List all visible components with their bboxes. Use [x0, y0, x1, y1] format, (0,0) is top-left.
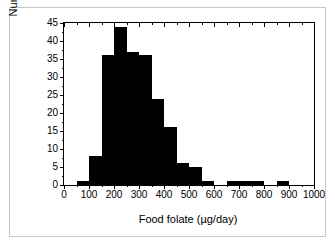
histogram-bar: [189, 167, 202, 185]
x-axis-minor-tick: [77, 185, 78, 187]
x-axis-tick-label: 300: [131, 190, 148, 200]
y-axis-tick: [60, 149, 64, 150]
histogram-bar: [177, 163, 190, 185]
y-axis-tick-label: 15: [47, 126, 58, 136]
x-axis-top-tick: [314, 23, 315, 27]
x-axis-tick-label: 100: [81, 190, 98, 200]
x-axis-tick-label: 200: [106, 190, 123, 200]
x-axis-minor-tick: [177, 185, 178, 187]
x-axis-minor-tick: [102, 185, 103, 187]
x-axis-top-minor-tick: [177, 23, 178, 25]
x-axis-top-tick: [289, 23, 290, 27]
y-axis-minor-tick: [62, 68, 64, 69]
x-axis-tick-label: 0: [61, 190, 67, 200]
histogram-bar: [127, 52, 140, 185]
x-axis-title: Food folate (µg/day): [63, 214, 313, 225]
histogram-bar: [164, 127, 177, 185]
histogram-bar: [239, 181, 252, 185]
y-axis-minor-tick: [62, 122, 64, 123]
plot-area: 051015202530354045 010020030040050060070…: [63, 22, 315, 186]
y-axis-tick-label: 20: [47, 108, 58, 118]
y-axis-tick: [60, 95, 64, 96]
x-axis-tick-label: 400: [156, 190, 173, 200]
y-axis-minor-tick: [62, 176, 64, 177]
x-axis-top-tick: [214, 23, 215, 27]
y-axis-tick: [60, 113, 64, 114]
x-axis-top-tick: [64, 23, 65, 27]
x-axis-top-minor-tick: [102, 23, 103, 25]
y-axis-minor-tick: [62, 86, 64, 87]
x-axis-top-minor-tick: [302, 23, 303, 25]
x-axis-top-tick: [164, 23, 165, 27]
x-axis-top-minor-tick: [227, 23, 228, 25]
x-axis-top-minor-tick: [127, 23, 128, 25]
y-axis-minor-tick: [62, 50, 64, 51]
x-axis-top-tick: [114, 23, 115, 27]
histogram-bar: [252, 181, 265, 185]
x-axis-top-tick: [89, 23, 90, 27]
y-axis-tick: [60, 167, 64, 168]
y-axis-tick-label: 5: [52, 162, 58, 172]
x-axis-top-minor-tick: [277, 23, 278, 25]
x-axis-tick-label: 700: [231, 190, 248, 200]
y-axis-tick: [60, 77, 64, 78]
x-axis-top-minor-tick: [202, 23, 203, 25]
histogram-bar: [227, 181, 240, 185]
histogram-bar: [139, 55, 152, 185]
x-axis-top-tick: [264, 23, 265, 27]
histogram-bar: [202, 181, 215, 185]
histogram-bar: [277, 181, 290, 185]
y-axis-tick-label: 35: [47, 54, 58, 64]
bars-layer: [64, 23, 314, 185]
histogram-bar: [77, 181, 90, 185]
x-axis-minor-tick: [302, 185, 303, 187]
y-axis-tick: [60, 131, 64, 132]
y-axis-tick-label: 40: [47, 36, 58, 46]
histogram-bar: [89, 156, 102, 185]
histogram-bar: [152, 99, 165, 185]
histogram-figure: Number of subjects 051015202530354045 01…: [0, 0, 335, 247]
x-axis-minor-tick: [127, 185, 128, 187]
y-axis-tick-label: 10: [47, 144, 58, 154]
x-axis-top-minor-tick: [77, 23, 78, 25]
x-axis-minor-tick: [252, 185, 253, 187]
y-axis-tick-label: 25: [47, 90, 58, 100]
x-axis-tick-label: 500: [181, 190, 198, 200]
x-axis-top-tick: [239, 23, 240, 27]
y-axis-minor-tick: [62, 32, 64, 33]
x-axis-tick-label: 1000: [303, 190, 325, 200]
y-axis-tick-label: 0: [52, 180, 58, 190]
x-axis-minor-tick: [227, 185, 228, 187]
x-axis-top-minor-tick: [152, 23, 153, 25]
y-axis-minor-tick: [62, 158, 64, 159]
y-axis-tick-label: 45: [47, 18, 58, 28]
y-axis-tick-label: 30: [47, 72, 58, 82]
y-axis-tick: [60, 41, 64, 42]
x-axis-top-tick: [139, 23, 140, 27]
y-axis-tick: [60, 59, 64, 60]
x-axis-minor-tick: [202, 185, 203, 187]
histogram-bar: [114, 27, 127, 185]
x-axis-tick-label: 900: [281, 190, 298, 200]
y-axis-minor-tick: [62, 140, 64, 141]
y-axis-minor-tick: [62, 104, 64, 105]
x-axis-top-minor-tick: [252, 23, 253, 25]
x-axis-tick-label: 800: [256, 190, 273, 200]
histogram-bar: [102, 55, 115, 185]
x-axis-minor-tick: [277, 185, 278, 187]
y-axis-title: Number of subjects: [8, 0, 22, 50]
x-axis-tick-label: 600: [206, 190, 223, 200]
x-axis-minor-tick: [152, 185, 153, 187]
x-axis-top-tick: [189, 23, 190, 27]
